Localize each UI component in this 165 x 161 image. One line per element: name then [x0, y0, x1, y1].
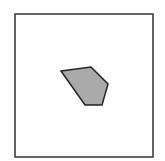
figure-canvas — [0, 0, 165, 161]
